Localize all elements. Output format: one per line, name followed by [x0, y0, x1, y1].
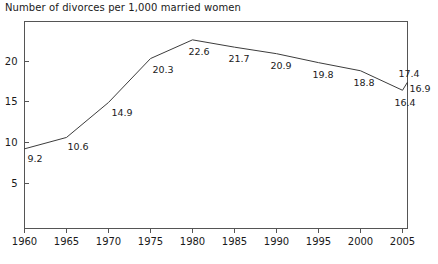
- data-point-label: 9.2: [28, 153, 43, 164]
- data-point-labels: 9.210.614.920.322.621.720.919.818.816.41…: [28, 46, 431, 164]
- chart-plot-area: 1960196519701975198019851990199520002005…: [0, 0, 438, 264]
- data-point-label: 16.4: [395, 97, 416, 108]
- x-tick-label: 2005: [390, 236, 415, 247]
- y-tick-label: 20: [5, 56, 18, 67]
- data-point-label: 16.9: [410, 83, 431, 94]
- data-point-label: 17.4: [399, 68, 420, 79]
- x-tick-label: 1960: [12, 236, 37, 247]
- data-point-label: 18.8: [354, 77, 375, 88]
- data-point-label: 20.3: [153, 64, 174, 75]
- data-point-label: 19.8: [313, 69, 334, 80]
- x-tick-label: 1980: [180, 236, 205, 247]
- y-tick-label: 15: [5, 96, 18, 107]
- x-tick-label: 1970: [96, 236, 121, 247]
- data-point-label: 14.9: [112, 107, 133, 118]
- divorce-rate-line-chart: Number of divorces per 1,000 married wom…: [0, 0, 438, 264]
- data-point-label: 10.6: [68, 141, 89, 152]
- data-point-label: 20.9: [271, 60, 292, 71]
- data-series-line: [25, 40, 408, 149]
- x-tick-label: 1990: [264, 236, 289, 247]
- data-point-label: 22.6: [189, 46, 210, 57]
- y-tick-label: 10: [5, 137, 18, 148]
- x-axis-ticks: 1960196519701975198019851990199520002005: [12, 229, 415, 247]
- data-point-label: 21.7: [229, 53, 250, 64]
- series-polyline: [25, 40, 408, 149]
- x-tick-label: 1995: [306, 236, 331, 247]
- x-tick-label: 1965: [54, 236, 79, 247]
- y-tick-label: 5: [11, 178, 17, 189]
- x-tick-label: 1975: [138, 236, 163, 247]
- x-tick-label: 1985: [222, 236, 247, 247]
- x-tick-label: 2000: [348, 236, 373, 247]
